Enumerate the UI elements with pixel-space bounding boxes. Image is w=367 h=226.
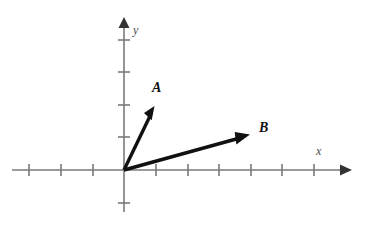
figure-background: [0, 0, 367, 226]
vector-a-label: A: [151, 80, 161, 95]
y-axis-label: y: [132, 23, 139, 37]
vector-diagram-canvas: x y A B: [0, 0, 367, 226]
vector-diagram-figure: x y A B: [0, 0, 367, 226]
x-axis-label: x: [315, 144, 322, 158]
vector-b-label: B: [258, 120, 268, 135]
